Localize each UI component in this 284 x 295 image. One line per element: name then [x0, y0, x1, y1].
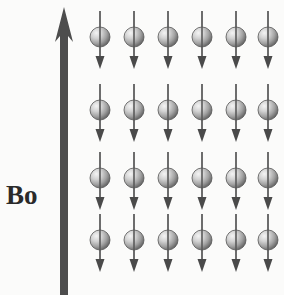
spin-unit [124, 214, 144, 272]
spin-arrow-head [130, 56, 139, 69]
spin-unit [258, 152, 278, 210]
spin-unit [258, 214, 278, 272]
spin-unit [226, 152, 246, 210]
spin-unit [124, 84, 144, 142]
field-label-b0: Bo [6, 182, 38, 209]
spin-arrow-head [130, 197, 139, 210]
spin-unit [226, 214, 246, 272]
spin-unit [158, 11, 178, 69]
spin-alignment-figure: Bo [0, 0, 284, 295]
spin-arrow-head [264, 197, 273, 210]
spin-arrow-head [264, 259, 273, 272]
spin-arrow-head [164, 129, 173, 142]
spin-unit [124, 11, 144, 69]
spin-unit [90, 11, 110, 69]
spin-arrow-head [232, 56, 241, 69]
spin-unit [158, 214, 178, 272]
spin-arrow-head [198, 129, 207, 142]
spin-arrow-head [264, 129, 273, 142]
spin-arrow-head [164, 56, 173, 69]
spin-arrow-head [96, 56, 105, 69]
spin-arrow-head [130, 129, 139, 142]
spin-arrow-head [96, 197, 105, 210]
spin-unit [258, 11, 278, 69]
spin-arrow-head [198, 197, 207, 210]
spin-unit [192, 214, 212, 272]
spin-unit [192, 152, 212, 210]
figure-canvas [0, 0, 284, 295]
spin-arrow-head [198, 259, 207, 272]
spin-unit [90, 214, 110, 272]
spin-unit [90, 152, 110, 210]
spin-unit [226, 84, 246, 142]
spin-arrow-head [96, 259, 105, 272]
spin-unit [158, 152, 178, 210]
spin-arrow-head [164, 259, 173, 272]
spin-unit [90, 84, 110, 142]
spin-arrow-head [232, 129, 241, 142]
spin-arrow-head [164, 197, 173, 210]
field-arrow-b0 [55, 7, 73, 295]
spin-unit [192, 11, 212, 69]
spin-arrow-head [96, 129, 105, 142]
spin-unit [192, 84, 212, 142]
spin-unit [226, 11, 246, 69]
spin-arrow-head [264, 56, 273, 69]
spin-arrow-head [232, 197, 241, 210]
spin-arrow-head [232, 259, 241, 272]
spin-grid [90, 11, 278, 272]
field-arrow-shaft [60, 34, 68, 295]
spin-unit [124, 152, 144, 210]
spin-unit [158, 84, 178, 142]
spin-arrow-head [130, 259, 139, 272]
spin-unit [258, 84, 278, 142]
spin-arrow-head [198, 56, 207, 69]
